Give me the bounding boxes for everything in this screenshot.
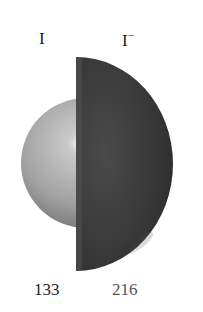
size-comparison-figure <box>0 0 203 312</box>
ion-radius: 216 <box>112 280 138 300</box>
iodide-ion-hemisphere <box>76 57 173 271</box>
ion-cut-edge <box>76 57 82 271</box>
atom-radius: 133 <box>34 280 60 300</box>
